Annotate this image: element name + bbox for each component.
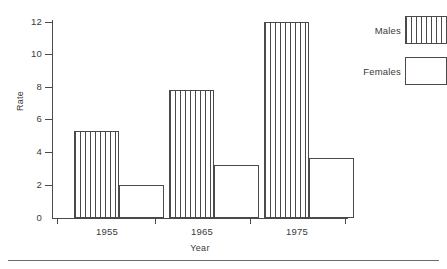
bar-females-1955 [119,185,164,218]
plot-area [52,22,347,218]
chart-legend: Males Females [352,16,447,98]
y-tick-mark [45,22,52,23]
y-tick-mark [45,185,52,186]
x-tick-label-1975: 1975 [267,226,327,237]
y-tick-label: 4 [2,147,42,157]
bar-females-1965 [214,165,259,218]
x-axis-line [52,218,348,219]
x-tick-label-1955: 1955 [77,226,137,237]
bar-females-1975 [309,158,354,218]
legend-item-males: Males [352,16,447,49]
legend-label-females: Females [363,66,401,77]
y-tick-mark [45,119,52,120]
legend-swatch-males [405,16,447,44]
y-tick-label: 10 [2,49,42,59]
y-axis-title: Rate [15,71,25,131]
x-axis-title: Year [0,243,400,253]
y-tick-mark [45,152,52,153]
y-axis-labels: 12 10 8 6 4 2 0 [0,0,42,269]
y-tick-label: 12 [2,17,42,27]
y-tick-label: 2 [2,180,42,190]
bottom-divider [8,260,439,261]
x-tick-mark [57,218,58,224]
bar-males-1965 [169,90,214,218]
x-tick-mark [345,218,346,224]
x-tick-mark [155,218,156,224]
legend-label-males: Males [375,25,401,36]
y-tick-mark [45,87,52,88]
bar-chart-figure: 12 10 8 6 4 2 0 Rate 1955 1965 1975 Year [0,0,447,269]
legend-swatch-females [405,57,447,85]
bar-males-1975 [264,22,309,218]
y-tick-label: 0 [2,213,42,223]
y-tick-mark [45,54,52,55]
x-tick-mark [250,218,251,224]
x-tick-label-1965: 1965 [172,226,232,237]
legend-item-females: Females [352,57,447,90]
bar-males-1955 [74,131,119,218]
